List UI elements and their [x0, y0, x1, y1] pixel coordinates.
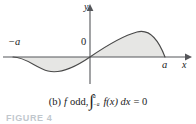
- y-axis-label: y: [84, 2, 88, 12]
- figure-footer: FIGURE 4: [0, 113, 196, 124]
- odd-function-graph: [0, 0, 196, 88]
- integral-limits: a −a: [93, 93, 99, 109]
- integral-upper-limit: a: [93, 94, 99, 100]
- definite-integral: ∫ a −a: [89, 93, 99, 109]
- x-axis-label: x: [182, 60, 186, 70]
- figure-caption: (b) f odd, ∫ a −a f(x) dx = 0: [0, 89, 196, 113]
- right-bound-label: a: [162, 60, 167, 71]
- figure-panel: y x −a 0 a (b) f odd, ∫ a −a f(x) dx = 0…: [0, 0, 196, 124]
- figure-number-label: FIGURE 4: [6, 113, 52, 123]
- left-bound-label: −a: [8, 37, 20, 48]
- origin-label: 0: [81, 37, 86, 48]
- caption-property: odd,: [70, 96, 88, 107]
- integral-result: = 0: [134, 96, 148, 107]
- caption-prefix: (b): [49, 96, 61, 107]
- integral-lower-limit: −a: [93, 102, 99, 108]
- caption-function-symbol: f: [64, 96, 67, 107]
- graph-area: y x −a 0 a: [0, 0, 196, 88]
- integrand-expression: f(x) dx: [103, 96, 130, 107]
